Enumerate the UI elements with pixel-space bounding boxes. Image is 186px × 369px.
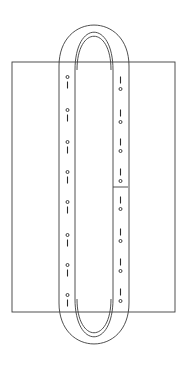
loop-band-group <box>59 25 129 344</box>
right-marker-circle-1 <box>119 121 122 124</box>
loop-outer-contour <box>59 25 129 344</box>
right-marker-circle-0 <box>119 88 122 91</box>
right-marker-circle-7 <box>119 300 122 303</box>
base-rectangle-group <box>12 62 175 312</box>
right-marker-circle-2 <box>119 150 122 153</box>
loop-bottom-inner-arc <box>77 299 111 333</box>
loop-top-inner-arc <box>77 36 111 70</box>
right-marker-circle-5 <box>119 240 122 243</box>
left-marker-circle-2 <box>66 141 69 144</box>
left-marker-circle-5 <box>66 234 69 237</box>
right-marker-circle-6 <box>119 270 122 273</box>
left-strip-markers <box>66 76 69 307</box>
left-marker-circle-4 <box>66 201 69 204</box>
left-marker-circle-0 <box>66 76 69 79</box>
diagram-root: Vertical loop band over rectangle <box>0 0 186 369</box>
right-marker-circle-3 <box>119 180 122 183</box>
diagram-canvas <box>0 0 186 369</box>
left-marker-circle-3 <box>66 171 69 174</box>
left-marker-circle-1 <box>66 109 69 112</box>
base-rectangle <box>12 62 175 312</box>
left-marker-circle-7 <box>66 294 69 297</box>
loop-inner-contour <box>75 32 113 337</box>
right-strip-markers <box>119 77 122 303</box>
left-marker-circle-6 <box>66 264 69 267</box>
right-marker-circle-4 <box>119 208 122 211</box>
